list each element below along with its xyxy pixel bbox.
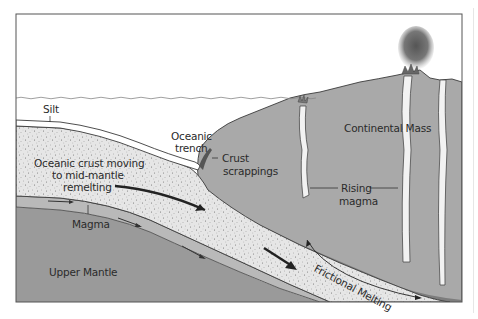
subduction-diagram: Silt Oceanic trench Crust scrappings Con… — [0, 0, 478, 319]
label-rising-magma-1: Rising — [341, 182, 372, 194]
label-oceanic-trench-1: Oceanic — [171, 130, 212, 142]
label-oceanic-crust-2: to mid-mantle — [52, 169, 124, 181]
page-edge-divider — [473, 8, 474, 313]
label-oceanic-trench-2: trench — [175, 142, 208, 154]
label-continental-mass: Continental Mass — [344, 122, 431, 134]
label-crust-scrappings-1: Crust — [222, 152, 249, 164]
label-silt: Silt — [43, 103, 59, 115]
label-upper-mantle: Upper Mantle — [49, 266, 117, 278]
label-magma: Magma — [72, 218, 110, 230]
label-oceanic-crust-1: Oceanic crust moving — [34, 157, 144, 169]
label-oceanic-crust-3: remelting — [63, 181, 112, 193]
volcano-smoke — [398, 26, 434, 70]
label-rising-magma-2: magma — [339, 195, 378, 207]
label-crust-scrappings-2: scrappings — [223, 165, 278, 177]
